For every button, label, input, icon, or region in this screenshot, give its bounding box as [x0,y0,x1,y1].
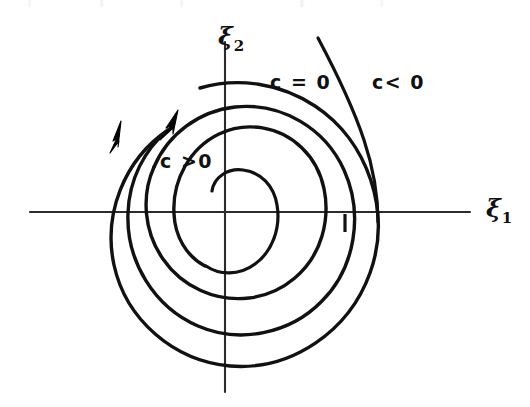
c-less-than-zero-branch-path [318,38,378,222]
c-less-than-zero-spiral-path [111,83,378,367]
inner-spiral-path [206,170,278,273]
xi2-axis-label: ξ2 [218,24,244,54]
region-label-c-equals-zero: c = 0 [270,73,331,92]
flow-arrow-outer [110,121,121,153]
phase-portrait-figure: ξ2 ξ1 c >0 c = 0 c< 0 [0,0,530,407]
xi1-axis-label: ξ1 [486,196,512,226]
xi2-subscript: 2 [234,37,244,55]
region-label-c-greater-than-zero: c >0 [160,152,213,171]
xi2-symbol: ξ [218,22,233,51]
phase-portrait-canvas [0,0,530,407]
xi1-subscript: 1 [502,209,512,227]
c-equals-zero-spiral-path [128,106,355,334]
xi1-symbol: ξ [486,194,501,223]
region-label-c-less-than-zero: c< 0 [372,73,425,92]
